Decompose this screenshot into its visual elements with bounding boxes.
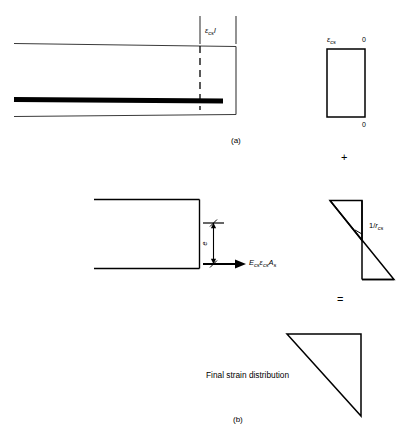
reinforcement-bar <box>14 100 223 102</box>
shrinkage-strain-figure: εcsl εcs 0 0 (a) + e EcsεcsAs 1/rcs = Fi… <box>0 0 405 438</box>
strain-block-bottom-right-zero: 0 <box>362 121 366 128</box>
shrinkage-dimension-trailing: l <box>214 26 216 35</box>
panel-a-strain-block-group <box>327 49 365 117</box>
beam-bottom-edge <box>14 115 236 117</box>
strain-block-top-right-zero: 0 <box>362 36 366 43</box>
restraining-force-label: EcsεcsAs <box>249 259 276 267</box>
panel-a-beam-group <box>14 16 236 117</box>
shrinkage-dimension-label: εcsl <box>205 27 216 35</box>
panel-b-curvature-group <box>330 201 394 280</box>
free-shrinkage-strain-rectangle <box>327 49 365 117</box>
force-strain-subscript: cs <box>263 262 269 268</box>
final-strain-distribution-label: Final strain distribution <box>206 371 289 379</box>
caption-a: (a) <box>231 137 241 145</box>
final-strain-triangle <box>287 334 361 416</box>
figure-vector-layer <box>0 0 405 438</box>
panel-b-section-group <box>94 200 246 269</box>
strain-block-top-left-label: εcs <box>327 36 336 44</box>
force-modulus-subscript: cs <box>254 262 260 268</box>
operator-equals: = <box>337 294 343 305</box>
restraining-force-arrowhead <box>235 259 246 268</box>
strain-block-subscript: cs <box>330 39 336 45</box>
caption-b: (b) <box>233 416 243 424</box>
curvature-label-subscript: cs <box>378 225 384 231</box>
eccentricity-label: e <box>201 242 208 246</box>
panel-b-final-strain-group <box>287 334 361 416</box>
eccentricity-arrowhead-up <box>211 223 216 228</box>
operator-plus: + <box>341 152 347 163</box>
beam-top-edge <box>14 44 236 47</box>
force-area-symbol: A <box>269 258 274 267</box>
shrinkage-dimension-subscript: cs <box>208 30 214 36</box>
force-area-subscript: s <box>274 262 277 268</box>
curvature-label: 1/rcs <box>369 222 383 230</box>
